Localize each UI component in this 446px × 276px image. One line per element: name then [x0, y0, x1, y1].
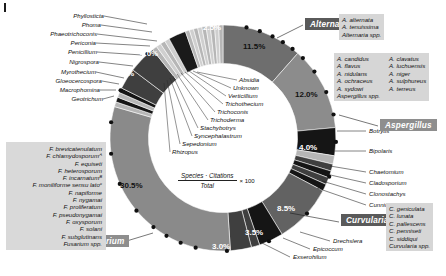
species-alternaria-0: A. alternata	[342, 16, 381, 23]
species-fusarium-6: F. napiforme	[10, 189, 102, 196]
species-fusarium-9: F. pseudonygamai	[10, 211, 102, 218]
species-aspergillus-2: A. nidulans	[337, 70, 380, 77]
slice-percent-exserohilum: 3.0%	[212, 243, 230, 250]
callout-dot	[324, 90, 328, 94]
callout-dot	[134, 209, 138, 213]
callout-label-macrophomina: Macrophomina	[10, 86, 100, 93]
callout-dot	[305, 212, 309, 216]
species-aspergillus-col2: A. clavatus A. luchuensis A. niger A. su…	[389, 55, 426, 99]
callout-label-drechslera: Drechslera	[333, 237, 362, 244]
callout-dot	[194, 246, 198, 250]
species-aspergillus-7: A. luchuensis	[389, 62, 426, 69]
species-fusarium-2: F. equiseti	[10, 160, 102, 167]
callout-label-gloeocercospora: Gloeocercospora	[6, 77, 102, 84]
slice-percent-fusarium: 30.5%	[120, 182, 143, 189]
callout-label-phaeotrichoconis: Phaeotrichoconis	[10, 30, 97, 37]
species-fusarium-11: F. solani	[10, 225, 102, 232]
callout-label-nigrospora: Nigrospora	[22, 58, 99, 65]
species-aspergillus-5: Aspergillus spp.	[337, 92, 380, 99]
species-fusarium-5: F. moniliforme sensu latoᶜ	[10, 181, 102, 188]
callout-label-geotrichum: Geotrichum	[22, 95, 103, 102]
slice-percent-penicillium: 4.0%	[140, 50, 158, 57]
callout-label-phyllosticta: Phyllosticta	[28, 12, 104, 19]
species-aspergillus-10: A. terreus	[389, 85, 426, 92]
callout-label-periconia: Periconia	[26, 39, 96, 46]
species-aspergillus-1: A. flavus	[337, 62, 380, 69]
species-aspergillus-3: A. ochraceus	[337, 77, 380, 84]
slice-percent-alternaria: 11.5%	[243, 43, 265, 50]
species-fusarium-8: F. proliferatum	[10, 203, 102, 210]
species-curvularia-5: Curvularia spp.	[389, 242, 430, 249]
species-aspergillus-8: A. niger	[389, 70, 426, 77]
species-aspergillus-9: A. sulphureus	[389, 77, 426, 84]
callout-dot	[118, 88, 122, 92]
genus-tag-aspergillus[interactable]: Aspergillus	[380, 119, 437, 131]
species-list-alternaria: A. alternata A. tenuissima Alternaria sp…	[339, 14, 384, 40]
formula-block: Species · Citations Total × 100	[178, 172, 255, 189]
species-fusarium-3: F. heterosporum	[10, 167, 102, 174]
callout-label-phoma: Phoma	[28, 21, 101, 28]
callout-dot	[327, 175, 331, 179]
species-fusarium-13: Fusarium spp.	[10, 240, 102, 247]
slice-percent-absidia: 2.5%	[203, 24, 221, 31]
formula-numerator: Species · Citations	[178, 172, 237, 181]
inner-label-unknown: Unknown	[233, 84, 259, 92]
callout-dot	[301, 56, 305, 60]
species-curvularia-1: C. lunata	[389, 212, 430, 219]
callout-dot	[270, 34, 274, 38]
callout-label-chaetomium: Chaetomium	[369, 168, 404, 175]
species-aspergillus-4: A. sydowi	[337, 85, 380, 92]
formula-multiplier: × 100	[240, 178, 255, 184]
callout-dot	[281, 40, 285, 44]
species-curvularia-0: C. geniculata	[389, 205, 430, 212]
callout-dot	[334, 140, 338, 144]
callout-dot	[109, 120, 113, 124]
callout-label-exserohilum: Exserohilum	[293, 253, 327, 260]
inner-label-verticillium: Verticillium	[228, 92, 258, 100]
species-aspergillus-col1: A. candidus A. flavus A. nidulans A. och…	[337, 55, 380, 99]
callout-dot	[164, 234, 168, 238]
formula-denominator: Total	[178, 181, 237, 189]
slice-percent-curvularia: 8.5%	[277, 205, 295, 212]
species-fusarium-0: F. brevicatenulatum	[10, 145, 102, 152]
callout-dot	[312, 69, 316, 73]
inner-label-rhizopus: Rhizopus	[172, 148, 198, 156]
species-fusarium-12: F. subglutinans	[10, 233, 102, 240]
species-aspergillus-6: A. clavatus	[389, 55, 426, 62]
callout-dot	[109, 152, 113, 156]
inner-label-absidia: Absidia	[239, 76, 259, 84]
callout-dot	[244, 25, 248, 29]
slice-percent-drechslera: 3.5%	[245, 229, 263, 236]
callout-label-clonostachys: Clonostachys	[369, 190, 406, 197]
figure-canvas: Phyllosticta Phoma Phaeotrichoconis Peri…	[0, 0, 446, 276]
species-curvularia-3: C. penniseti	[389, 227, 430, 234]
slice-percent-nigrospora: 3.0%	[116, 70, 134, 77]
callout-dot	[331, 112, 335, 116]
callout-dot	[290, 47, 294, 51]
inner-label-trichoderma: Trichoderma	[210, 116, 244, 124]
inner-label-stachybotrys: Stachybotrys	[200, 124, 236, 132]
inner-label-sepedonium: Sepedonium	[182, 140, 217, 148]
callout-label-penicillium: Penicillium	[22, 48, 97, 55]
species-fusarium-7: F. nygamai	[10, 196, 102, 203]
callout-label-myrothecium: Myrothecium	[12, 68, 96, 75]
callout-dot	[179, 241, 183, 245]
species-curvularia-4: C. siddiqui	[389, 235, 430, 242]
species-curvularia-2: C. pallescens	[389, 220, 430, 227]
species-list-curvularia: C. geniculata C. lunata C. pallescens C.…	[386, 203, 433, 251]
inner-label-syncephalastrum: Syncephalastrum	[194, 132, 242, 140]
callout-dot	[258, 29, 262, 33]
callout-dot	[267, 239, 271, 243]
slice-percent-bipolaris: 4.0%	[299, 144, 317, 151]
species-alternaria-1: A. tenuissima	[342, 23, 381, 30]
species-list-fusarium: F. brevicatenulatum F. chlamydosporumᴬ F…	[6, 142, 106, 250]
callout-label-epicoccum: Epicoccum	[313, 245, 343, 252]
species-fusarium-4: F. incarnatumᴮ	[10, 174, 102, 181]
species-fusarium-1: F. chlamydosporumᴬ	[10, 152, 102, 159]
inner-label-trichoconis: Trichoconis	[217, 108, 248, 116]
species-list-aspergillus: A. candidus A. flavus A. nidulans A. och…	[334, 53, 429, 101]
slice-percent-aspergillus: 12.0%	[295, 91, 318, 98]
species-aspergillus-0: A. candidus	[337, 55, 380, 62]
callout-dot	[151, 225, 155, 229]
species-alternaria-2: Alternaria spp.	[342, 31, 381, 38]
